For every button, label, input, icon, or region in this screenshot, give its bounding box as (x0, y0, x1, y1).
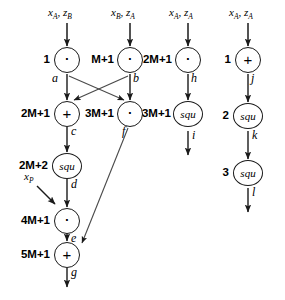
edge-label-j: j (251, 71, 254, 86)
input-label-xa-zb: xA, zB (48, 6, 72, 21)
step-label-c: 2M+1 (2, 107, 50, 119)
edge-label-i: i (192, 128, 195, 143)
step-label-l: 3 (201, 166, 229, 178)
node-i-symbol: squ (180, 109, 195, 120)
diagram-canvas: xA, zB xB, zA xA, zA xA, zA xP · 1 a · M… (0, 0, 285, 300)
step-label-i: 3M+1 (119, 107, 171, 119)
step-label-f: 3M+1 (62, 107, 114, 119)
step-label-e: 4M+1 (4, 214, 50, 226)
step-label-g: 5M+1 (4, 248, 50, 260)
step-label-a: 1 (8, 53, 50, 65)
edge-label-a: a (52, 71, 58, 86)
node-k[interactable]: squ (233, 103, 263, 129)
step-label-b: M+1 (62, 53, 114, 65)
step-label-d: 2M+2 (0, 159, 48, 171)
node-h-symbol: · (185, 48, 191, 67)
node-l[interactable]: squ (233, 160, 263, 186)
node-e-symbol: · (64, 209, 70, 228)
input-text-3: xA, zA (229, 6, 253, 18)
edge-label-e: e (71, 231, 76, 246)
edge-label-g: g (71, 265, 77, 280)
step-label-k: 2 (201, 109, 229, 121)
edge-xp-e (37, 186, 55, 204)
edge-label-l: l (252, 185, 255, 200)
input-text-0: xA, zB (48, 6, 72, 18)
input-text-4: xP (24, 170, 33, 182)
node-g-symbol: + (63, 247, 72, 262)
step-label-j: 1 (203, 53, 231, 65)
node-l-symbol: squ (240, 168, 255, 179)
input-text-2: xA, zA (169, 6, 193, 18)
node-j[interactable]: + (235, 47, 261, 73)
input-label-xb-za: xB, zA (111, 6, 135, 21)
edge-label-f: f (122, 124, 125, 139)
node-d[interactable]: squ (52, 153, 82, 179)
input-label-xp: xP (24, 170, 33, 185)
node-d-symbol: squ (59, 161, 74, 172)
node-k-symbol: squ (240, 111, 255, 122)
node-h[interactable]: · (175, 47, 201, 73)
input-label-xa-za-1: xA, zA (169, 6, 193, 21)
edge-b-c (74, 76, 128, 100)
step-label-h: 2M+1 (124, 53, 172, 65)
edge-label-b: b (133, 71, 139, 86)
edge-a-f (69, 76, 124, 100)
node-j-symbol: + (244, 52, 253, 67)
node-i[interactable]: squ (173, 101, 203, 127)
edge-f-g (82, 128, 128, 243)
edge-label-c: c (71, 124, 76, 139)
input-text-1: xB, zA (111, 6, 135, 18)
input-label-xa-za-2: xA, zA (229, 6, 253, 21)
edge-label-d: d (71, 177, 77, 192)
edge-label-h: h (191, 71, 197, 86)
edge-label-k: k (252, 128, 257, 143)
